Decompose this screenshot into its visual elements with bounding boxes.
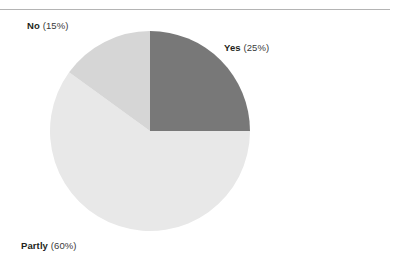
pie-label-no-name: No: [27, 20, 40, 31]
pie-label-no-value: (15%): [43, 20, 69, 31]
pie-label-partly: Partly (60%): [21, 240, 77, 251]
pie-label-yes-value: (25%): [243, 42, 269, 53]
pie-label-partly-value: (60%): [51, 240, 77, 251]
pie-label-yes: Yes (25%): [224, 42, 269, 53]
pie-chart-svg: [0, 0, 401, 267]
pie-label-no: No (15%): [27, 20, 68, 31]
pie-label-yes-name: Yes: [224, 42, 241, 53]
pie-label-partly-name: Partly: [21, 240, 48, 251]
pie-chart-figure: No (15%) Yes (25%) Partly (60%): [0, 0, 401, 267]
pie-chart-plot-area: [0, 0, 401, 267]
